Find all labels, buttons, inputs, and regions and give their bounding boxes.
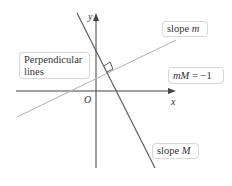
slope-m-var: m <box>192 23 200 34</box>
origin-label: O <box>84 95 91 105</box>
y-axis-label: y <box>88 12 92 22</box>
slope-M-var: M <box>182 145 191 156</box>
equation-rhs: −1 <box>201 70 212 81</box>
slope-m-label: slope m <box>162 21 208 37</box>
x-axis-arrow-icon <box>168 88 176 94</box>
equation-eq: = <box>189 70 200 81</box>
perpendicular-line2: lines <box>24 66 85 78</box>
equation-label: mM = −1 <box>168 67 224 84</box>
slope-m-prefix: slope <box>167 23 192 34</box>
y-axis-arrow-icon <box>93 13 99 21</box>
slope-M-label: slope M <box>152 143 199 159</box>
perpendicular-line1: Perpendicular <box>24 54 85 66</box>
x-axis-label: x <box>171 97 175 107</box>
slope-M-prefix: slope <box>157 145 182 156</box>
equation-lhs: mM <box>173 70 189 81</box>
perpendicular-lines-label: Perpendicular lines <box>19 52 90 79</box>
